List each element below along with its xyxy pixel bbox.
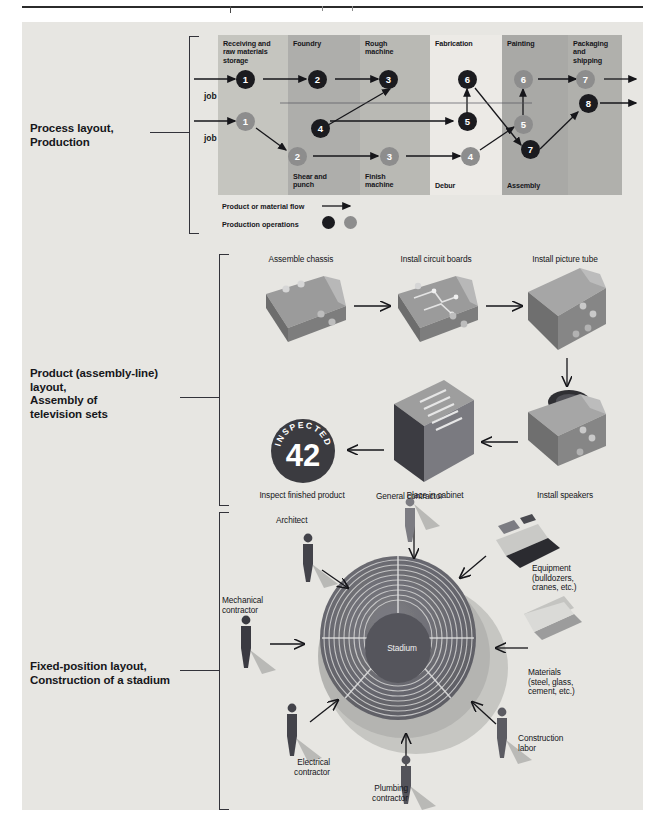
figure-mechanical-contractor	[241, 616, 276, 674]
operation-node-y4[interactable]: 4	[461, 147, 480, 166]
label-line: cement, etc.)	[528, 686, 575, 696]
label-line: layout,	[30, 381, 210, 395]
label-line: Production	[30, 136, 200, 150]
assembly-line-diagram: Assemble chassis Install circuit boards …	[228, 254, 628, 504]
operation-node-x8[interactable]: 8	[579, 94, 598, 113]
icon-speakers	[528, 390, 606, 466]
rule-tick	[322, 6, 323, 11]
legend-flow-label: Product or material flow	[222, 202, 304, 211]
process-flow-arrows	[218, 35, 622, 195]
operation-node-x5[interactable]: 5	[458, 112, 477, 131]
label-line: Electrical	[297, 757, 330, 767]
label-architect: Architect	[276, 516, 307, 526]
label-line: Fixed-position layout,	[30, 660, 230, 674]
label-materials: Materials (steel, glass, cement, etc.)	[528, 668, 608, 697]
label-line: contractor	[372, 793, 408, 803]
label-line: Construction of a stadium	[30, 674, 230, 688]
inspection-badge: INSPECTED BY 42	[270, 418, 336, 484]
label-line: (bulldozers,	[532, 573, 574, 583]
section-label-process-layout: Process layout, Production	[30, 122, 200, 149]
diagram-canvas: Process layout, Production job X job Y R…	[22, 22, 643, 810]
leader-line-process	[150, 132, 190, 133]
label-line: contractor	[294, 767, 330, 777]
label-electrical-contractor: Electrical contractor	[266, 758, 330, 777]
label-plumbing-contractor: Plumbing contractor	[346, 784, 408, 803]
icon-circuit-board	[398, 276, 478, 342]
operation-node-x2[interactable]: 2	[308, 70, 327, 89]
fixed-position-diagram: General contractor Architect Mechanical …	[228, 508, 643, 810]
label-line: cranes, etc.)	[532, 582, 576, 592]
leader-line-fixed	[180, 670, 220, 671]
operation-node-y6[interactable]: 6	[514, 70, 533, 89]
label-general-contractor: General contractor	[376, 492, 443, 502]
operation-node-y7[interactable]: 7	[576, 70, 595, 89]
top-divider-rule	[22, 6, 643, 8]
figure-general-contractor	[405, 498, 440, 542]
label-line: Mechanical	[222, 595, 263, 605]
operation-node-x7[interactable]: 7	[521, 140, 540, 159]
label-line: contractor	[222, 605, 258, 615]
figure-architect	[303, 534, 338, 588]
legend-arrow-icon	[322, 202, 362, 212]
operation-node-x6[interactable]: 6	[458, 70, 477, 89]
label-line: Plumbing	[374, 783, 408, 793]
label-line: Process layout,	[30, 122, 200, 136]
label-line: Equipment	[532, 563, 571, 573]
rule-tick	[230, 6, 231, 13]
svg-text:42: 42	[286, 438, 320, 473]
figure-electrical-contractor	[287, 704, 322, 762]
legend-dot-light-icon	[344, 216, 357, 229]
label-line: (steel, glass,	[528, 677, 573, 687]
label-equipment: Equipment (bulldozers, cranes, etc.)	[532, 564, 608, 593]
figure-page: Process layout, Production job X job Y R…	[0, 0, 665, 831]
icon-cabinet	[394, 380, 474, 482]
icon-equipment-bulldozer	[496, 514, 560, 568]
legend-dot-dark-icon	[322, 216, 335, 229]
leader-line-product	[180, 397, 220, 398]
process-layout-diagram: Receiving and raw materials storage Foun…	[218, 35, 622, 195]
label-line: Materials	[528, 667, 561, 677]
rule-tick	[352, 6, 353, 11]
label-stadium-center: Stadium	[376, 644, 428, 654]
operation-node-y2[interactable]: 2	[288, 147, 307, 166]
icon-materials-beams	[524, 596, 582, 640]
label-line: labor	[518, 743, 536, 753]
label-line: Product (assembly-line)	[30, 367, 210, 381]
operation-node-y3[interactable]: 3	[380, 147, 399, 166]
icon-picture-tube	[528, 268, 606, 350]
section-label-fixed-position: Fixed-position layout, Construction of a…	[30, 660, 230, 687]
label-mechanical-contractor: Mechanical contractor	[222, 596, 286, 615]
bracket-process	[189, 36, 199, 234]
operation-node-x1[interactable]: 1	[236, 70, 255, 89]
operation-node-x3[interactable]: 3	[379, 70, 398, 89]
label-line: television sets	[30, 408, 210, 422]
icon-chassis	[266, 276, 346, 342]
label-construction-labor: Construction labor	[518, 734, 590, 753]
operation-node-y5[interactable]: 5	[514, 115, 533, 134]
operation-node-x4[interactable]: 4	[311, 119, 330, 138]
legend-operations-label: Production operations	[222, 220, 299, 229]
label-line: Construction	[518, 733, 563, 743]
section-label-product-layout: Product (assembly-line) layout, Assembly…	[30, 367, 210, 421]
operation-node-y1[interactable]: 1	[236, 112, 255, 131]
